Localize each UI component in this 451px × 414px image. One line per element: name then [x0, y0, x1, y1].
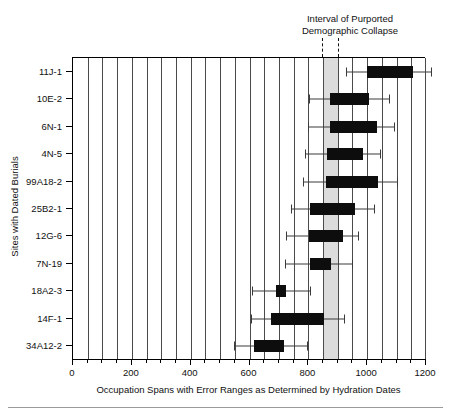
annotation-leader-left-icon — [322, 38, 323, 57]
y-axis-tick — [66, 181, 72, 182]
gridline — [382, 58, 383, 359]
annotation-interval-of-purported-demographic-collapse: Interval of Purported Demographic Collap… — [280, 13, 420, 37]
x-axis-minor-tick — [381, 359, 382, 363]
y-axis-tick — [66, 345, 72, 346]
error-range-cap — [234, 342, 235, 351]
x-axis-tick-label: 1200 — [395, 367, 451, 378]
gridline — [397, 58, 398, 359]
x-axis-minor-tick — [101, 359, 102, 363]
error-range-cap — [286, 232, 287, 241]
occupation-span-bar — [326, 176, 378, 188]
y-axis-tick — [66, 208, 72, 209]
y-axis-tick — [66, 98, 72, 99]
y-axis-title: Sites with Dated Burials — [9, 127, 20, 287]
chart-figure: Interval of Purported Demographic Collap… — [0, 0, 451, 414]
x-axis-major-tick — [131, 359, 132, 365]
error-range-cap — [352, 259, 353, 268]
error-range-cap — [285, 259, 286, 268]
occupation-span-bar — [327, 148, 363, 160]
occupation-span-bar — [310, 203, 355, 215]
y-axis-category-label: 14F-1 — [0, 312, 62, 323]
occupation-span-bar — [367, 66, 413, 78]
x-axis-title: Occupation Spans with Error Ranges as De… — [72, 384, 425, 395]
y-axis-tick — [66, 263, 72, 264]
y-axis-category-label: 34A12-2 — [0, 340, 62, 351]
x-axis-minor-tick — [160, 359, 161, 363]
occupation-span-bar — [276, 285, 286, 297]
gridline — [117, 58, 118, 359]
occupation-span-bar — [330, 93, 369, 105]
x-axis-minor-tick — [337, 359, 338, 363]
error-range-cap — [344, 314, 345, 323]
x-axis-tick-label: 200 — [101, 367, 161, 378]
error-range-cap — [397, 177, 398, 186]
x-axis-tick-label: 400 — [160, 367, 220, 378]
error-range-cap — [251, 314, 252, 323]
error-range-cap — [394, 122, 395, 131]
y-axis-tick — [66, 235, 72, 236]
error-range-cap — [252, 287, 253, 296]
error-range-cap — [303, 177, 304, 186]
occupation-span-bar — [310, 258, 331, 270]
annotation-line-1: Interval of Purported — [280, 13, 420, 25]
occupation-span-bar — [309, 230, 343, 242]
x-axis-major-tick — [72, 359, 73, 365]
x-axis-tick-label: 1000 — [336, 367, 396, 378]
gridline — [88, 58, 89, 359]
gridline — [235, 58, 236, 359]
y-axis-tick — [66, 290, 72, 291]
x-axis-minor-tick — [351, 359, 352, 363]
gridline — [132, 58, 133, 359]
error-range-cap — [389, 95, 390, 104]
x-axis-minor-tick — [204, 359, 205, 363]
x-axis-minor-tick — [116, 359, 117, 363]
y-axis-category-label: 11J-1 — [0, 65, 62, 76]
plot-area — [72, 57, 425, 359]
x-axis-minor-tick — [146, 359, 147, 363]
error-range-cap — [431, 67, 432, 76]
gridline — [191, 58, 192, 359]
gridline — [102, 58, 103, 359]
occupation-span-bar — [254, 340, 284, 352]
occupation-span-bar — [271, 313, 324, 325]
gridline — [264, 58, 265, 359]
gridline — [147, 58, 148, 359]
y-axis-tick — [66, 153, 72, 154]
error-range-cap — [291, 205, 292, 214]
x-axis-major-tick — [425, 359, 426, 365]
y-axis-category-label: 18A2-3 — [0, 285, 62, 296]
gridline — [176, 58, 177, 359]
x-axis-minor-tick — [278, 359, 279, 363]
y-axis-tick — [66, 318, 72, 319]
x-axis-minor-tick — [293, 359, 294, 363]
x-axis-major-tick — [366, 359, 367, 365]
x-axis-minor-tick — [87, 359, 88, 363]
x-axis-minor-tick — [263, 359, 264, 363]
error-range-cap — [358, 232, 359, 241]
x-axis-minor-tick — [175, 359, 176, 363]
x-axis-major-tick — [307, 359, 308, 365]
gridline — [161, 58, 162, 359]
x-axis-major-tick — [190, 359, 191, 365]
y-axis-category-label: 10E-2 — [0, 93, 62, 104]
error-range-cap — [307, 342, 308, 351]
x-axis-major-tick — [249, 359, 250, 365]
error-range-cap — [309, 95, 310, 104]
x-axis-minor-tick — [396, 359, 397, 363]
x-axis-minor-tick — [219, 359, 220, 363]
y-axis-tick — [66, 126, 72, 127]
error-range-cap — [346, 67, 347, 76]
gridline — [425, 58, 426, 359]
x-axis-tick-label: 0 — [42, 367, 102, 378]
x-axis-tick-label: 800 — [277, 367, 337, 378]
annotation-leader-right-icon — [338, 38, 339, 57]
error-range-cap — [310, 287, 311, 296]
x-axis-tick-label: 600 — [219, 367, 279, 378]
x-axis-minor-tick — [410, 359, 411, 363]
gridline — [220, 58, 221, 359]
error-range-cap — [374, 205, 375, 214]
x-axis-minor-tick — [234, 359, 235, 363]
error-range-cap — [308, 122, 309, 131]
footer-divider — [8, 407, 443, 408]
gridline — [205, 58, 206, 359]
